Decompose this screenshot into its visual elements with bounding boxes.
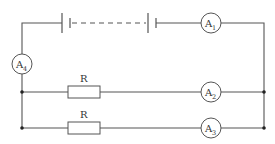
resistor-2-label: R [80, 109, 88, 120]
junction-right-1 [262, 90, 266, 94]
ammeter-a2: A 2 [201, 82, 221, 102]
svg-text:3: 3 [212, 129, 216, 137]
wire-top-left [22, 23, 62, 54]
ammeter-a4: A 4 [12, 54, 32, 74]
resistor-1-label: R [80, 73, 88, 84]
resistor-2 [68, 122, 100, 134]
ammeter-a1: A 1 [201, 13, 221, 33]
ammeter-a3: A 3 [201, 118, 221, 138]
wire-top-right [156, 23, 264, 128]
svg-text:1: 1 [212, 24, 216, 32]
junction-left-1 [20, 90, 24, 94]
svg-text:2: 2 [212, 93, 216, 101]
junction-left-2 [20, 126, 24, 130]
resistor-1 [68, 86, 100, 98]
svg-text:4: 4 [23, 65, 27, 73]
junction-right-2 [262, 126, 266, 130]
circuit-diagram: R R A 1 A 2 A 3 A 4 [0, 0, 275, 144]
